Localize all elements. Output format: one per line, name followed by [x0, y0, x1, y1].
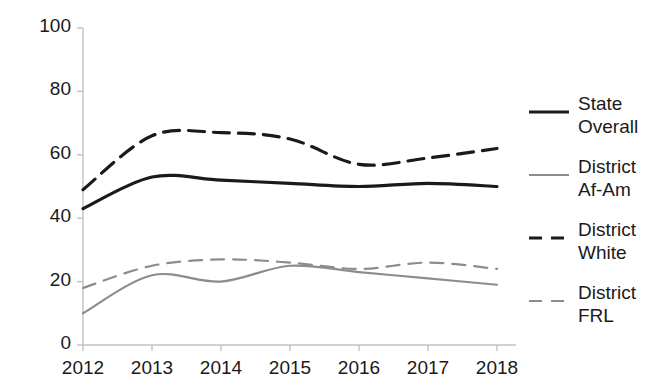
legend-label-state-overall: State Overall — [578, 92, 652, 138]
x-axis-tick-label: 2015 — [255, 357, 325, 379]
chart-legend: State OverallDistrict Af-AmDistrict Whit… — [528, 96, 652, 348]
x-axis-ticks — [83, 345, 497, 351]
legend-item-district-frl[interactable]: District FRL — [528, 285, 652, 335]
legend-swatch-district-af-am — [528, 166, 570, 176]
x-axis-tick-label: 2012 — [48, 357, 118, 379]
legend-swatch-state-overall — [528, 103, 570, 113]
y-axis-tick-label: 100 — [25, 15, 71, 37]
x-axis-tick-label: 2017 — [393, 357, 463, 379]
line-chart: 020406080100 201220132014201520162017201… — [0, 0, 652, 387]
series-line-district-af-am — [83, 265, 497, 313]
legend-item-district-white[interactable]: District White — [528, 222, 652, 272]
legend-label-district-white: District White — [578, 218, 652, 264]
x-axis-tick-label: 2014 — [186, 357, 256, 379]
legend-item-state-overall[interactable]: State Overall — [528, 96, 652, 146]
x-axis-tick-label: 2016 — [324, 357, 394, 379]
y-axis-ticks — [77, 28, 83, 345]
y-axis-tick-label: 80 — [25, 78, 71, 100]
legend-swatch-district-white — [528, 229, 570, 239]
y-axis-tick-label: 40 — [25, 205, 71, 227]
legend-swatch-district-frl — [528, 292, 570, 302]
x-axis-tick-label: 2013 — [117, 357, 187, 379]
legend-label-district-frl: District FRL — [578, 281, 652, 327]
y-axis-tick-label: 0 — [25, 332, 71, 354]
series-line-district-white — [83, 130, 497, 189]
y-axis-tick-label: 20 — [25, 269, 71, 291]
legend-item-district-af-am[interactable]: District Af-Am — [528, 159, 652, 209]
series-lines — [83, 130, 497, 313]
series-line-district-frl — [83, 259, 497, 288]
series-line-state-overall — [83, 175, 497, 208]
y-axis-tick-label: 60 — [25, 142, 71, 164]
x-axis-tick-label: 2018 — [462, 357, 532, 379]
legend-label-district-af-am: District Af-Am — [578, 155, 652, 201]
